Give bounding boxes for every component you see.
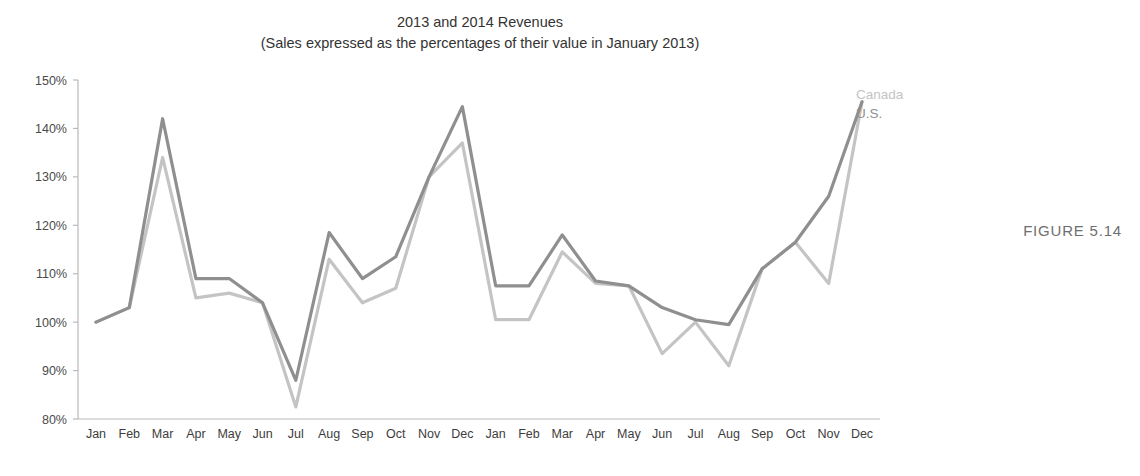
x-axis-tick-label: Mar (551, 427, 573, 441)
series-lines-group (96, 102, 862, 407)
x-axis-tick-label: Jun (652, 427, 672, 441)
y-axis-tick-label: 100% (35, 316, 67, 330)
y-axis-tick-label: 140% (35, 122, 67, 136)
axis-group (78, 80, 880, 419)
x-axis-tick-label: Nov (418, 427, 441, 441)
x-axis-tick-label: Sep (351, 427, 373, 441)
y-axis-tick-label: 150% (35, 74, 67, 88)
x-axis-tick-label: Oct (386, 427, 406, 441)
x-axis-tick-label: Feb (119, 427, 141, 441)
x-axis-tick-label: Apr (186, 427, 205, 441)
y-axis-tick-label: 110% (36, 267, 67, 281)
figure-container: 2013 and 2014 Revenues (Sales expressed … (0, 0, 1140, 476)
x-axis-tick-label: Oct (786, 427, 806, 441)
series-line-us (96, 102, 862, 380)
x-axis-tick-label: Jun (252, 427, 272, 441)
x-axis-tick-label: Sep (751, 427, 773, 441)
x-axis-tick-label: Jan (86, 427, 106, 441)
series-line-canada (96, 102, 862, 407)
y-axis-tick-label: 90% (42, 364, 67, 378)
legend-label-canada: Canada (856, 87, 904, 102)
x-axis-tick-label: Dec (451, 427, 473, 441)
y-tick-group: 80%90%100%110%120%130%140%150% (35, 74, 78, 427)
y-axis-tick-label: 130% (35, 170, 67, 184)
x-axis-tick-label: Mar (152, 427, 174, 441)
chart-area: 2013 and 2014 Revenues (Sales expressed … (0, 0, 960, 476)
x-axis-tick-label: Feb (518, 427, 540, 441)
x-tick-group: JanFebMarAprMayJunJulAugSepOctNovDecJanF… (86, 427, 873, 441)
x-axis-tick-label: May (617, 427, 641, 441)
x-axis-tick-label: May (217, 427, 241, 441)
x-axis-tick-label: Aug (718, 427, 740, 441)
legend-label-us: U.S. (856, 106, 882, 121)
x-axis-tick-label: Nov (818, 427, 841, 441)
x-axis-tick-label: Jul (288, 427, 304, 441)
x-axis-tick-label: Jan (486, 427, 506, 441)
y-axis-tick-label: 120% (35, 219, 67, 233)
figure-caption: FIGURE 5.14 (1023, 222, 1122, 239)
y-axis-tick-label: 80% (42, 413, 67, 427)
x-axis-tick-label: Jul (687, 427, 703, 441)
x-axis-tick-label: Dec (851, 427, 873, 441)
x-axis-tick-label: Apr (586, 427, 605, 441)
line-chart-plot: 80%90%100%110%120%130%140%150% JanFebMar… (0, 0, 960, 476)
x-axis-tick-label: Aug (318, 427, 340, 441)
